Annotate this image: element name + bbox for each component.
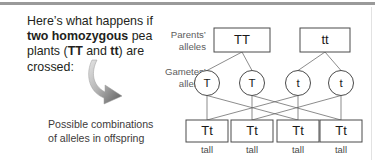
gametes-genotype-text: t: [296, 77, 300, 89]
gametes-circle: [286, 71, 311, 96]
offspring-combinations-label: Possible combinations of alleles in offs…: [48, 118, 188, 145]
offspring-node: Tttall: [231, 120, 273, 155]
gametes-circle: [240, 71, 265, 96]
parents-genotype-text: TT: [234, 32, 250, 47]
parents-genotype-text: tt: [321, 32, 329, 47]
offspring-genotype-text: Tt: [292, 123, 304, 138]
offspring-phenotype-text: tall: [335, 144, 347, 155]
gametes-node: t: [329, 71, 354, 96]
parents-alleles-label: Parents’ alleles: [120, 29, 206, 53]
parents-node: tt: [300, 28, 350, 52]
cross-connector-line: [325, 52, 341, 71]
curved-down-right-arrow-icon: [88, 58, 144, 106]
gametes-circle: [329, 71, 354, 96]
gametes-node: t: [286, 71, 311, 96]
cross-connector-line: [207, 52, 242, 71]
parents-box: [300, 28, 350, 52]
offspring-box: [231, 120, 273, 142]
offspring-genotype-text: Tt: [246, 123, 258, 138]
offspring-phenotype-text: tall: [201, 144, 213, 155]
parents-label-line2: alleles: [120, 41, 206, 53]
cross-connector-line: [207, 96, 298, 121]
offspring-genotype-text: Tt: [201, 123, 213, 138]
offspring-node: Tttall: [277, 120, 319, 155]
offspring-box: [186, 120, 228, 142]
cross-connector-line: [298, 52, 325, 71]
offspring-node: Tttall: [320, 120, 362, 155]
offspring-genotype-text: Tt: [335, 123, 347, 138]
offspring-label-line2: of alleles in offspring: [48, 132, 188, 146]
node-layer: TTttTTttTttallTttallTttallTttall: [186, 28, 362, 155]
parents-node: TT: [214, 28, 270, 52]
cross-connector-line: [242, 52, 252, 71]
right-edge-hairline: [371, 7, 372, 160]
cross-connector-line: [207, 96, 298, 121]
parents-label-line1: Parents’: [120, 29, 206, 41]
top-rule-divider: [0, 2, 375, 5]
offspring-box: [277, 120, 319, 142]
parents-box: [214, 28, 270, 52]
gametes-genotype-text: t: [339, 77, 343, 89]
offspring-node: Tttall: [186, 120, 228, 155]
offspring-phenotype-text: tall: [292, 144, 304, 155]
edge-layer: [207, 52, 341, 120]
offspring-phenotype-text: tall: [246, 144, 258, 155]
gametes-genotype-text: T: [248, 77, 255, 89]
offspring-label-line1: Possible combinations: [48, 118, 188, 132]
genetics-cross-figure: Here’s what happens if two homozygous pe…: [0, 0, 375, 160]
cross-connector-line: [252, 96, 341, 121]
cross-connector-line: [252, 96, 341, 121]
offspring-box: [320, 120, 362, 142]
gametes-node: T: [240, 71, 265, 96]
